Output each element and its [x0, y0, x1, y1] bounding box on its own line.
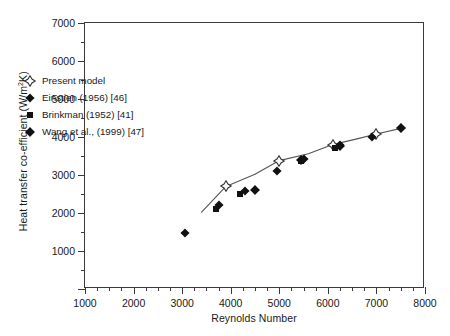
- y-minor-tick: [81, 270, 85, 271]
- legend-label: Wang et al., (1999) [47]: [42, 127, 144, 137]
- x-tick-label: 2000: [122, 297, 145, 309]
- chart-figure: Heat transfer co-efficient (W/m2K) Reyno…: [0, 0, 450, 336]
- x-minor-tick: [194, 287, 195, 291]
- x-tick: [279, 287, 280, 294]
- y-minor-tick: [81, 194, 85, 195]
- y-tick: [78, 23, 85, 24]
- x-minor-tick: [291, 287, 292, 291]
- y-tick-label: 6000: [52, 55, 75, 67]
- x-minor-tick: [109, 287, 110, 291]
- data-point: [293, 152, 309, 168]
- chart-legend: Present modelEinstien (1956) [46]Brinkma…: [22, 72, 144, 140]
- data-point: [247, 182, 263, 198]
- y-minor-tick: [81, 232, 85, 233]
- x-tick: [134, 287, 135, 294]
- plot-area: 1000200030004000500060007000 10002000300…: [84, 22, 424, 288]
- legend-label: Einstien (1956) [46]: [42, 93, 127, 103]
- y-minor-tick: [81, 42, 85, 43]
- x-minor-tick: [352, 287, 353, 291]
- y-axis-title: Heat transfer co-efficient (W/m2K): [17, 36, 30, 266]
- x-tick: [231, 287, 232, 294]
- data-point: [332, 138, 348, 154]
- x-axis-title: Reynolds Number: [84, 312, 424, 324]
- x-tick-label: 8000: [413, 297, 436, 309]
- y-tick-label: 2000: [52, 207, 75, 219]
- y-tick: [78, 289, 85, 290]
- x-tick: [182, 287, 183, 294]
- x-minor-tick: [401, 287, 402, 291]
- data-point: [177, 225, 193, 241]
- legend-item: Wang et al., (1999) [47]: [22, 123, 144, 140]
- x-tick: [328, 287, 329, 294]
- x-minor-tick: [170, 287, 171, 291]
- data-point: [364, 129, 380, 145]
- y-tick: [78, 251, 85, 252]
- legend-marker-open-four-point-star: [22, 73, 38, 89]
- legend-item: Einstien (1956) [46]: [22, 89, 144, 106]
- y-tick: [78, 175, 85, 176]
- data-point: [393, 120, 409, 136]
- x-minor-tick: [389, 287, 390, 291]
- legend-marker-filled-square: [22, 107, 38, 123]
- x-tick: [85, 287, 86, 294]
- y-tick-label: 1000: [52, 245, 75, 257]
- x-minor-tick: [267, 287, 268, 291]
- x-tick-label: 4000: [219, 297, 242, 309]
- x-tick-label: 6000: [316, 297, 339, 309]
- legend-item: Brinkman (1952) [41]: [22, 106, 144, 123]
- legend-label: Present model: [42, 76, 105, 86]
- legend-marker-filled-diamond-star: [22, 124, 38, 140]
- legend-item: Present model: [22, 72, 144, 89]
- y-tick: [78, 213, 85, 214]
- y-tick-label: 7000: [52, 17, 75, 29]
- y-tick-label: 3000: [52, 169, 75, 181]
- x-tick-label: 1000: [73, 297, 96, 309]
- legend-marker-filled-four-point-star: [22, 90, 38, 106]
- x-minor-tick: [206, 287, 207, 291]
- x-minor-tick: [219, 287, 220, 291]
- x-tick-label: 3000: [170, 297, 193, 309]
- x-tick: [376, 287, 377, 294]
- data-point: [269, 163, 285, 179]
- y-minor-tick: [81, 156, 85, 157]
- model-trend-line: [85, 23, 425, 289]
- x-minor-tick: [304, 287, 305, 291]
- x-minor-tick: [413, 287, 414, 291]
- data-point: [208, 201, 224, 217]
- x-tick-label: 7000: [365, 297, 388, 309]
- y-tick: [78, 61, 85, 62]
- x-minor-tick: [97, 287, 98, 291]
- x-tick: [425, 287, 426, 294]
- x-minor-tick: [146, 287, 147, 291]
- x-minor-tick: [121, 287, 122, 291]
- x-tick-label: 5000: [268, 297, 291, 309]
- x-minor-tick: [340, 287, 341, 291]
- x-minor-tick: [158, 287, 159, 291]
- x-minor-tick: [364, 287, 365, 291]
- legend-label: Brinkman (1952) [41]: [42, 110, 133, 120]
- x-minor-tick: [243, 287, 244, 291]
- x-minor-tick: [255, 287, 256, 291]
- x-minor-tick: [316, 287, 317, 291]
